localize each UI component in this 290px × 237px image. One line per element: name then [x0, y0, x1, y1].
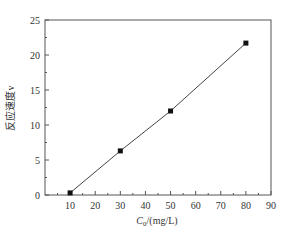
y-tick-label: 15 [30, 85, 40, 96]
y-tick-label: 5 [35, 155, 40, 166]
x-tick-label: 30 [115, 200, 125, 211]
x-tick-label: 50 [166, 200, 176, 211]
line-chart: 0510152025 102030405060708090 反应速度v C0/(… [0, 0, 290, 237]
plot-border [45, 20, 271, 195]
data-point-square-marker [168, 109, 173, 114]
data-point-square-marker [118, 148, 123, 153]
x-tick-label: 60 [191, 200, 201, 211]
y-axis-title: 反应速度v [4, 86, 16, 131]
x-tick-label: 20 [90, 200, 100, 211]
x-tick-label: 10 [65, 200, 75, 211]
x-tick-label: 40 [140, 200, 150, 211]
y-tick-label: 25 [30, 15, 40, 26]
y-tick-label: 0 [35, 190, 40, 201]
x-axis-title-rest: /(mg/L) [147, 215, 178, 227]
x-axis-title: C0/(mg/L) [136, 215, 177, 228]
y-tick-label: 20 [30, 50, 40, 61]
data-series [68, 41, 249, 196]
x-axis: 102030405060708090 [58, 191, 276, 211]
x-tick-label: 80 [241, 200, 251, 211]
plot-frame [45, 20, 271, 195]
y-axis: 0510152025 [30, 15, 49, 201]
series-line [70, 43, 246, 193]
y-tick-label: 10 [30, 120, 40, 131]
data-point-square-marker [243, 41, 248, 46]
x-tick-label: 70 [216, 200, 226, 211]
data-point-square-marker [68, 190, 73, 195]
x-tick-label: 90 [266, 200, 276, 211]
